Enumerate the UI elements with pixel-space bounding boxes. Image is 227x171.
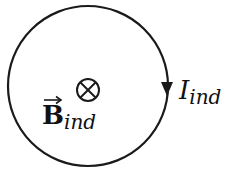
- current-label: Iind: [178, 75, 221, 109]
- induced-current-diagram: Iind Bind: [0, 0, 227, 171]
- field-label: Bind: [42, 100, 96, 134]
- current-loop: [8, 6, 168, 166]
- current-direction-arrow-icon: [161, 82, 173, 96]
- field-into-page-icon: [77, 79, 99, 101]
